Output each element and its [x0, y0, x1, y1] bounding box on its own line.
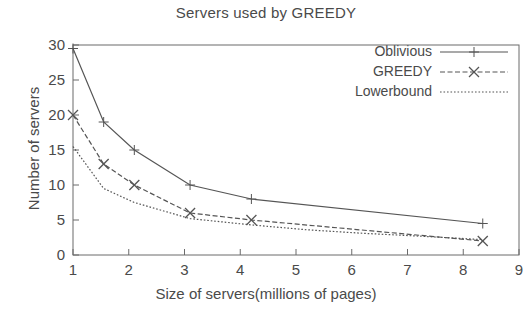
series-lowerbound: [73, 147, 483, 240]
chart-figure: Servers used by GREEDY Number of servers…: [0, 0, 532, 311]
legend-swatch-greedy: [440, 67, 508, 77]
plot-area: [0, 0, 532, 311]
legend-swatch-oblivious: [440, 47, 508, 57]
series-greedy: [68, 110, 488, 246]
